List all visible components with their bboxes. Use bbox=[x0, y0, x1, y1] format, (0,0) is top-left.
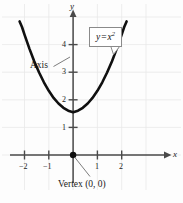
parabola-figure: y=x2 Axis Vertex (0, 0) −2 −1 1 2 1 2 3 … bbox=[0, 0, 183, 203]
vertex-leader-line bbox=[75, 157, 91, 177]
y-tick-label: 4 bbox=[62, 41, 66, 49]
x-tick-label: 1 bbox=[95, 163, 99, 171]
curve-equation-callout: y=x2 bbox=[89, 27, 122, 47]
x-axis-arrowhead bbox=[164, 152, 172, 159]
y-tick-label: 3 bbox=[62, 68, 66, 76]
equation-exponent: 2 bbox=[112, 30, 115, 37]
axis-annotation-label: Axis bbox=[30, 61, 48, 71]
x-tick-label: 2 bbox=[119, 163, 123, 171]
vertex-annotation-label: Vertex (0, 0) bbox=[58, 180, 106, 190]
x-tick-label: −1 bbox=[43, 163, 52, 171]
y-tick-label: 1 bbox=[62, 124, 66, 132]
y-axis-name: y bbox=[70, 2, 74, 11]
y-tick-label: 2 bbox=[62, 96, 66, 104]
x-axis bbox=[10, 151, 172, 160]
axis-leader-line bbox=[54, 57, 71, 67]
x-axis-name: x bbox=[173, 150, 177, 159]
vertex-point bbox=[70, 152, 76, 158]
equation-operator: = bbox=[100, 32, 107, 42]
x-tick-label: −2 bbox=[19, 163, 28, 171]
